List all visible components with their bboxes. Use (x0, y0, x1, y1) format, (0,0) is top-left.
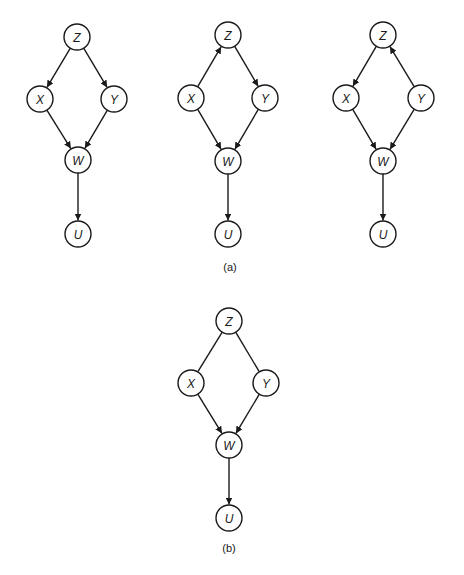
node-x: X (178, 85, 204, 111)
graph-a2-edges (198, 46, 259, 220)
caption-b: (b) (222, 542, 235, 554)
arrow-z-x (47, 48, 70, 87)
node-label: W (377, 155, 390, 169)
arrow-y-z (390, 47, 414, 87)
node-y: Y (408, 85, 434, 111)
node-label: U (74, 228, 83, 242)
node-y: Y (101, 86, 127, 112)
node-label: U (379, 228, 388, 242)
node-w: W (215, 148, 241, 174)
nodes-layer: ZXYWUZXYWUZXYWUZXYWU (27, 22, 434, 531)
node-w: W (216, 432, 242, 458)
arrow-y-w (235, 109, 259, 149)
node-label: W (222, 155, 235, 169)
node-u: U (65, 221, 91, 247)
node-x: X (333, 85, 359, 111)
node-x: X (178, 370, 204, 396)
caption-a: (a) (223, 261, 236, 273)
node-y: Y (253, 370, 279, 396)
node-label: X (35, 93, 45, 107)
edge-z-y (236, 332, 259, 371)
node-z: Z (64, 24, 90, 50)
node-label: Y (261, 92, 270, 106)
node-u: U (370, 221, 396, 247)
node-label: W (223, 439, 236, 453)
node-label: Z (72, 31, 81, 45)
graph-a1-nodes: ZXYWU (27, 24, 127, 247)
arrow-x-w (47, 110, 71, 149)
arrow-x-w (198, 109, 222, 149)
node-label: Y (417, 92, 426, 106)
arrow-z-x (353, 46, 377, 86)
node-u: U (215, 221, 241, 247)
node-label: X (186, 377, 196, 391)
node-label: Z (224, 315, 233, 329)
graph-b-edges (198, 332, 260, 504)
node-label: Z (223, 29, 232, 43)
arrow-z-y (235, 46, 259, 86)
node-z: Z (370, 22, 396, 48)
arrow-y-w (85, 110, 108, 148)
graph-a3-edges (353, 46, 415, 220)
node-w: W (370, 148, 396, 174)
node-label: Y (262, 377, 271, 391)
node-label: U (225, 512, 234, 526)
arrow-z-y (84, 48, 107, 87)
node-u: U (216, 505, 242, 531)
node-label: U (224, 228, 233, 242)
arrow-x-w (198, 394, 222, 433)
arrow-y-w (390, 109, 414, 149)
node-label: Y (110, 93, 119, 107)
node-x: X (27, 86, 53, 112)
node-label: X (186, 92, 196, 106)
node-label: W (72, 154, 85, 168)
node-label: Z (378, 29, 387, 43)
node-w: W (65, 147, 91, 173)
arrow-y-w (236, 394, 259, 433)
arrow-x-z (198, 47, 222, 87)
diagram-canvas: ZXYWUZXYWUZXYWUZXYWU (a) (b) (0, 0, 464, 575)
edge-z-x (198, 332, 222, 371)
graph-a1-edges (47, 48, 108, 220)
node-y: Y (252, 85, 278, 111)
arrow-x-w (353, 109, 377, 149)
node-label: X (341, 92, 351, 106)
node-z: Z (216, 308, 242, 334)
node-z: Z (215, 22, 241, 48)
